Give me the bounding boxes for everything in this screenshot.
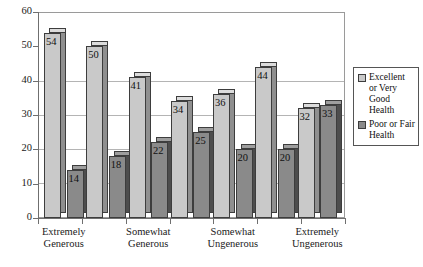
- x-tick: [38, 219, 39, 224]
- legend-item: Poor or Fair Health: [358, 119, 415, 141]
- bar-face: [320, 105, 337, 218]
- bar-side: [61, 28, 66, 213]
- bar-side: [272, 62, 277, 213]
- bar-top: [325, 100, 342, 105]
- bar-face: [298, 108, 315, 218]
- x-tick: [126, 219, 127, 224]
- y-tick: [33, 184, 38, 185]
- bar-value-label: 22: [153, 145, 164, 156]
- y-axis: [38, 12, 39, 219]
- x-label-line1: Somewhat: [126, 226, 170, 238]
- legend-swatch-icon: [358, 74, 366, 82]
- x-label-line2: Ungenerous: [207, 238, 258, 250]
- legend-item: Excellent or Very Good Health: [358, 72, 415, 116]
- bar-light: [171, 101, 188, 218]
- y-axis-label: 40: [4, 75, 32, 85]
- x-tick: [257, 219, 258, 224]
- bar-top: [218, 89, 235, 94]
- legend-label: Poor or Fair Health: [369, 119, 415, 141]
- bar-value-label: 18: [111, 159, 122, 170]
- x-axis-category-label: SomewhatGenerous: [126, 226, 170, 250]
- y-tick: [33, 81, 38, 82]
- x-label-line2: Generous: [42, 238, 86, 250]
- bar-light: [213, 94, 230, 218]
- x-tick: [345, 219, 346, 224]
- bar-face: [44, 33, 61, 218]
- x-label-line1: Extremely: [292, 226, 343, 238]
- bar-side: [188, 96, 193, 213]
- x-label-line1: Extremely: [42, 226, 86, 238]
- bar-chart: 60 50 40 30 20 10 0 54145018412234253620…: [0, 0, 423, 267]
- y-tick: [33, 46, 38, 47]
- bar-value-label: 36: [215, 97, 226, 108]
- bar-value-label: 50: [88, 49, 99, 60]
- x-tick: [82, 219, 83, 224]
- bar-light: [44, 33, 61, 218]
- bar-side: [146, 72, 151, 213]
- bar-light: [298, 108, 315, 218]
- bar-face: [213, 94, 230, 218]
- y-axis-label: 30: [4, 109, 32, 119]
- x-axis-category-label: ExtremelyGenerous: [42, 226, 86, 250]
- bar-top: [176, 96, 193, 101]
- x-tick: [301, 219, 302, 224]
- bar-value-label: 25: [195, 135, 206, 146]
- bar-side: [315, 103, 320, 213]
- bar-light: [255, 67, 272, 218]
- x-axis-category-label: ExtremelyUngenerous: [292, 226, 343, 250]
- bar-side: [230, 89, 235, 213]
- bar-light: [86, 46, 103, 218]
- bar-value-label: 41: [131, 80, 142, 91]
- x-tick: [213, 219, 214, 224]
- bar-dark: [320, 105, 337, 218]
- bar-face: [255, 67, 272, 218]
- bar-side: [337, 100, 342, 213]
- x-tick: [170, 219, 171, 224]
- y-axis-label: 10: [4, 178, 32, 188]
- bar-face: [129, 77, 146, 218]
- x-axis: [38, 218, 346, 219]
- y-tick: [33, 12, 38, 13]
- legend-swatch-icon: [358, 121, 366, 129]
- bar-value-label: 20: [238, 152, 249, 163]
- bar-top: [303, 103, 320, 108]
- bar-face: [171, 101, 188, 218]
- bar-top: [134, 72, 151, 77]
- x-label-line2: Generous: [126, 238, 170, 250]
- y-axis-label: 20: [4, 143, 32, 153]
- bar-value-label: 20: [280, 152, 291, 163]
- bar-top: [260, 62, 277, 67]
- bar-top: [49, 28, 66, 33]
- bar-value-label: 33: [322, 108, 333, 119]
- y-axis-label: 50: [4, 40, 32, 50]
- bar-value-label: 54: [46, 36, 57, 47]
- gridline-50: [39, 81, 344, 82]
- bar-side: [103, 41, 108, 213]
- bar-value-label: 44: [257, 70, 268, 81]
- x-label-line2: Ungenerous: [292, 238, 343, 250]
- bar-value-label: 32: [300, 111, 311, 122]
- y-tick: [33, 149, 38, 150]
- x-axis-category-label: SomewhatUngenerous: [207, 226, 258, 250]
- y-axis-label: 60: [4, 6, 32, 16]
- chart-legend: Excellent or Very Good Health Poor or Fa…: [353, 67, 419, 146]
- y-axis-label: 0: [4, 212, 32, 222]
- y-tick: [33, 115, 38, 116]
- bar-face: [86, 46, 103, 218]
- bar-light: [129, 77, 146, 218]
- bar-value-label: 14: [69, 173, 80, 184]
- bar-top: [91, 41, 108, 46]
- x-label-line1: Somewhat: [207, 226, 258, 238]
- legend-label: Excellent or Very Good Health: [369, 72, 415, 116]
- bar-value-label: 34: [173, 104, 184, 115]
